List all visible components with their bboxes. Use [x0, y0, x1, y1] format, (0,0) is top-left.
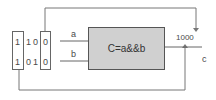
register-bit: 1 [15, 37, 20, 47]
register-bit: 0 [43, 57, 48, 67]
and-gate-block: C=a&&b [88, 27, 165, 70]
top-wire-arrow-icon [193, 28, 199, 32]
gate-expression: C=a&&b [108, 43, 146, 54]
register-bit: 1 [15, 57, 20, 67]
register-bit: 0 [43, 37, 48, 47]
output-register-value: 1000 [176, 33, 194, 43]
register-bit: 0 [33, 37, 38, 47]
register-bit: 0 [26, 57, 31, 67]
register-bit: 1 [26, 37, 31, 47]
register-bit: 1 [33, 57, 38, 67]
input-b-label: b [71, 49, 76, 59]
output-c-label: c [202, 54, 207, 64]
input-a-label: a [71, 29, 76, 39]
